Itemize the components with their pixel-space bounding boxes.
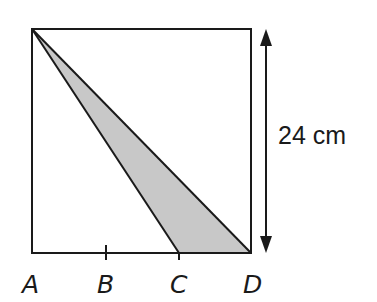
point-label-a: A — [20, 270, 39, 299]
point-label-b: B — [97, 270, 114, 299]
point-label-c: C — [170, 270, 188, 299]
arrow-down-icon — [260, 236, 272, 253]
line-to-d — [32, 29, 251, 253]
geometry-diagram: 24 cm A B C D — [0, 0, 377, 302]
point-label-d: D — [243, 270, 262, 299]
arrow-up-icon — [260, 29, 272, 46]
line-to-c — [32, 29, 179, 253]
dimension-label: 24 cm — [278, 121, 346, 149]
